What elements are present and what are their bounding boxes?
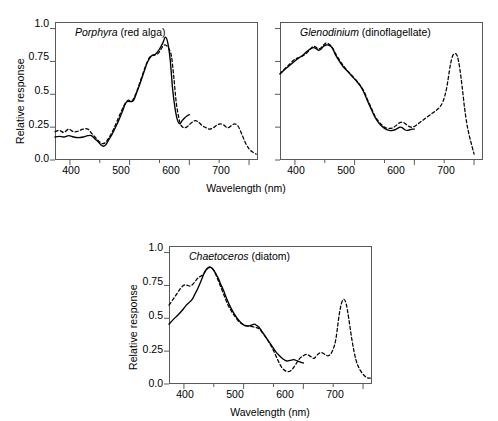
x-axis-label-chaetoceros: Wavelength (nm) (210, 406, 330, 418)
curve-solid (280, 45, 414, 131)
curve-dashed (55, 45, 256, 154)
curve-solid (169, 267, 303, 363)
x-tick-chaetoceros-1: 500 (220, 388, 250, 400)
x-tick-porphyra-2: 600 (156, 164, 186, 176)
x-tick-glenodinium-2: 600 (381, 164, 411, 176)
x-tick-porphyra-1: 500 (106, 164, 136, 176)
x-tick-chaetoceros-0: 400 (170, 388, 200, 400)
x-tick-chaetoceros-3: 700 (320, 388, 350, 400)
panel-porphyra: Relative response 1.0 0.75 0.5 0.25 0.0 … (0, 0, 258, 205)
curve-solid (55, 37, 189, 146)
panel-glenodinium: Glenodinium (dinoflagellate) 400 500 600… (280, 0, 498, 205)
x-tick-glenodinium-0: 400 (281, 164, 311, 176)
x-tick-glenodinium-1: 500 (331, 164, 361, 176)
panel-chaetoceros: Relative response 1.0 0.75 0.5 0.25 0.0 … (113, 222, 383, 421)
x-tick-porphyra-3: 700 (206, 164, 236, 176)
x-tick-porphyra-0: 400 (56, 164, 86, 176)
x-tick-glenodinium-3: 700 (431, 164, 461, 176)
x-tick-chaetoceros-2: 600 (270, 388, 300, 400)
curve-dashed (280, 43, 474, 154)
x-axis-label-top: Wavelength (nm) (186, 182, 306, 194)
